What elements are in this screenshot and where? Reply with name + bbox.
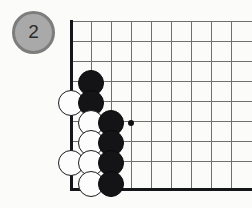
go-diagram: 2 <box>0 0 252 208</box>
star-point-marker <box>128 120 134 126</box>
move-number-badge: 2 <box>12 11 55 54</box>
grid-line-horizontal <box>71 41 252 42</box>
grid-line-horizontal <box>71 21 252 22</box>
grid-line-vertical <box>171 21 172 188</box>
grid-line-vertical <box>151 21 152 188</box>
grid-line-vertical <box>231 21 232 188</box>
move-number-label: 2 <box>28 22 39 41</box>
grid-line-horizontal <box>71 61 252 62</box>
grid-line-vertical <box>211 21 212 188</box>
black-stone[interactable] <box>98 171 124 197</box>
grid-line-vertical <box>131 21 132 188</box>
grid-line-vertical <box>191 21 192 188</box>
